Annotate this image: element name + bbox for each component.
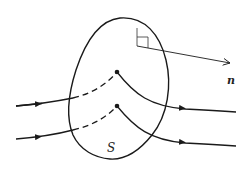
closed-surface — [69, 18, 169, 159]
surface-label: S — [107, 141, 115, 155]
field-line-1-arrow-in — [16, 104, 42, 107]
field-line-2-point — [115, 104, 120, 109]
field-line-2-incoming — [16, 130, 73, 139]
field-line-2-hidden — [73, 106, 117, 130]
right-angle-marker — [137, 28, 148, 48]
field-line-2-outgoing — [117, 106, 236, 146]
field-line-1-point — [115, 70, 120, 75]
normal-label: n — [227, 74, 235, 87]
normal-vector — [137, 46, 230, 63]
field-line-1-outgoing — [117, 72, 236, 112]
field-line-1-hidden — [73, 72, 117, 98]
flux-diagram: n S — [0, 0, 250, 180]
